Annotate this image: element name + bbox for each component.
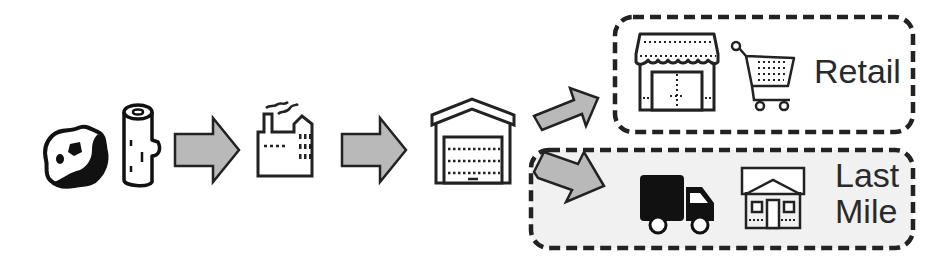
ore-rock-icon xyxy=(40,122,110,190)
factory-icon xyxy=(256,102,328,178)
shopping-cart-icon xyxy=(730,40,800,112)
warehouse-to-retail-arrow xyxy=(528,82,602,142)
house-icon xyxy=(740,166,806,230)
warehouse-to-last-mile-arrow xyxy=(532,150,612,212)
raw-to-factory-arrow xyxy=(173,116,241,184)
last-mile-label-line2: Mile xyxy=(835,194,897,230)
warehouse-icon xyxy=(430,99,516,185)
last-mile-label-line1: Last xyxy=(835,158,897,194)
last-mile-label: Last Mile xyxy=(835,158,897,229)
factory-to-warehouse-arrow xyxy=(340,116,408,184)
retail-label: Retail xyxy=(814,54,901,90)
wood-log-icon xyxy=(118,100,166,190)
delivery-truck-icon xyxy=(640,175,716,235)
storefront-icon xyxy=(634,32,720,112)
